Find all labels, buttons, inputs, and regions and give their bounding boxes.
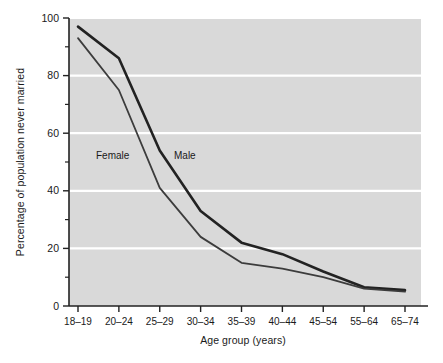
y-tick-label: 40 bbox=[47, 184, 59, 196]
x-tick-label: 65–74 bbox=[391, 316, 419, 327]
x-axis-title: Age group (years) bbox=[200, 334, 286, 346]
y-tick-label: 20 bbox=[47, 242, 59, 254]
line-chart-svg: 020406080100 18–1920–2425–2930–3435–3940… bbox=[0, 0, 443, 363]
y-axis-title: Percentage of population never married bbox=[14, 68, 26, 256]
x-tick-label: 30–34 bbox=[187, 316, 215, 327]
x-tick-label: 25–29 bbox=[146, 316, 174, 327]
y-axis-ticks: 020406080100 bbox=[41, 12, 69, 312]
x-tick-label: 55–64 bbox=[350, 316, 378, 327]
x-tick-label: 40–44 bbox=[268, 316, 296, 327]
x-axis-ticks: 18–1920–2425–2930–3435–3940–4445–5455–64… bbox=[64, 306, 419, 327]
x-tick-label: 20–24 bbox=[105, 316, 133, 327]
x-tick-label: 35–39 bbox=[228, 316, 256, 327]
x-tick-label: 45–54 bbox=[309, 316, 337, 327]
series-label-female: Female bbox=[96, 150, 130, 161]
x-tick-label: 18–19 bbox=[64, 316, 92, 327]
chart-figure: 020406080100 18–1920–2425–2930–3435–3940… bbox=[0, 0, 443, 363]
series-label-male: Male bbox=[174, 150, 196, 161]
y-tick-label: 60 bbox=[47, 127, 59, 139]
y-tick-label: 100 bbox=[41, 12, 59, 24]
y-tick-label: 0 bbox=[53, 300, 59, 312]
y-tick-label: 80 bbox=[47, 69, 59, 81]
